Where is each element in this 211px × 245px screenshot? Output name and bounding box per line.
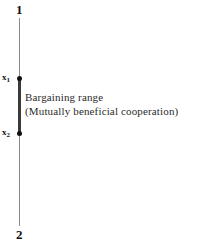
actor-label-bottom: 2 bbox=[16, 228, 23, 241]
axis-point-dot-x1 bbox=[17, 76, 22, 81]
axis-point-label-x2-base: x bbox=[2, 127, 7, 137]
axis-point-label-x2-subscript: 2 bbox=[7, 131, 11, 139]
axis-segment-lower bbox=[19, 133, 20, 226]
axis-segment-upper bbox=[19, 18, 20, 78]
axis-point-dot-x2 bbox=[17, 131, 22, 136]
actor-label-top: 1 bbox=[16, 3, 23, 16]
axis-point-label-x1-base: x bbox=[2, 72, 7, 82]
annotation-line-2: (Mutually beneficial cooperation) bbox=[25, 105, 211, 119]
axis-point-label-x1-subscript: 1 bbox=[7, 76, 11, 84]
axis-point-label-x2: x2 bbox=[2, 128, 10, 138]
annotation-line-1: Bargaining range bbox=[25, 91, 211, 105]
bargaining-range-figure: 1 x1 x2 Bargaining range (Mutually benef… bbox=[0, 0, 211, 245]
bargaining-range-annotation: Bargaining range (Mutually beneficial co… bbox=[25, 91, 211, 118]
axis-point-label-x1: x1 bbox=[2, 73, 10, 83]
bargaining-range-segment bbox=[18, 78, 21, 133]
